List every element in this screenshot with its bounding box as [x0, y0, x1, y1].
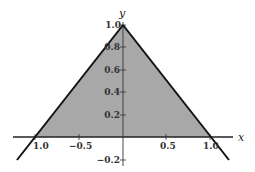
chart-plot: 1.0 −0.5 0.5 1.0 1.0 0.8 0.6 0.4 0.2 −0.… — [0, 0, 255, 172]
x-tick-label: 1.0 — [203, 141, 219, 151]
y-tick-label: 0.6 — [104, 65, 120, 75]
x-tick-label: 0.5 — [160, 141, 176, 151]
shaded-region — [35, 25, 210, 137]
x-tick-label: 1.0 — [33, 141, 49, 151]
y-tick-label: 0.8 — [104, 42, 120, 52]
y-tick-label: 1.0 — [105, 20, 121, 30]
x-tick-label: −0.5 — [69, 141, 92, 151]
y-tick-label: −0.2 — [97, 155, 120, 165]
y-tick-label: 0.4 — [104, 87, 120, 97]
y-tick-label: 0.2 — [104, 110, 120, 120]
y-axis-label: y — [118, 7, 126, 20]
x-axis-label: x — [238, 131, 245, 144]
